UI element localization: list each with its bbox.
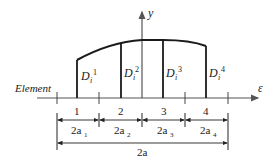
element-number-1: 1 [74, 105, 80, 117]
svg-text:D: D [165, 66, 175, 80]
svg-text:1: 1 [84, 131, 88, 139]
svg-text:3: 3 [178, 65, 182, 74]
svg-text:3: 3 [170, 131, 174, 139]
element-discretization-diagram: y ε Element D i 1 D i 2 D i 3 D i 4 1 2 … [0, 0, 277, 161]
svg-text:2: 2 [127, 131, 131, 139]
svg-text:i: i [90, 76, 92, 85]
svg-text:4: 4 [221, 65, 225, 74]
svg-text:D: D [123, 66, 133, 80]
strip-label-4: D i 4 [208, 65, 225, 82]
element-label: Element [14, 82, 52, 94]
epsilon-axis-label: ε [258, 81, 263, 95]
svg-text:2a: 2a [71, 124, 82, 136]
svg-text:1: 1 [93, 68, 97, 77]
svg-text:D: D [80, 69, 90, 83]
strip-label-3: D i 3 [165, 65, 182, 82]
y-axis-label: y [147, 6, 154, 20]
svg-text:i: i [133, 73, 135, 82]
element-number-2: 2 [118, 105, 124, 117]
svg-text:2: 2 [135, 65, 139, 74]
width-label-1: 2a 1 [71, 124, 88, 139]
strip-label-2: D i 2 [123, 65, 139, 82]
svg-text:2a: 2a [200, 124, 211, 136]
svg-text:4: 4 [213, 131, 217, 139]
width-label-3: 2a 3 [157, 124, 174, 139]
total-width-label: 2a [137, 146, 148, 158]
svg-text:D: D [208, 66, 218, 80]
element-number-3: 3 [161, 105, 167, 117]
width-label-4: 2a 4 [200, 124, 217, 139]
svg-text:i: i [175, 73, 177, 82]
svg-text:2a: 2a [157, 124, 168, 136]
width-label-2: 2a 2 [114, 124, 131, 139]
svg-text:2a: 2a [114, 124, 125, 136]
element-number-4: 4 [203, 105, 209, 117]
svg-text:i: i [218, 73, 220, 82]
strip-label-1: D i 1 [80, 68, 97, 85]
